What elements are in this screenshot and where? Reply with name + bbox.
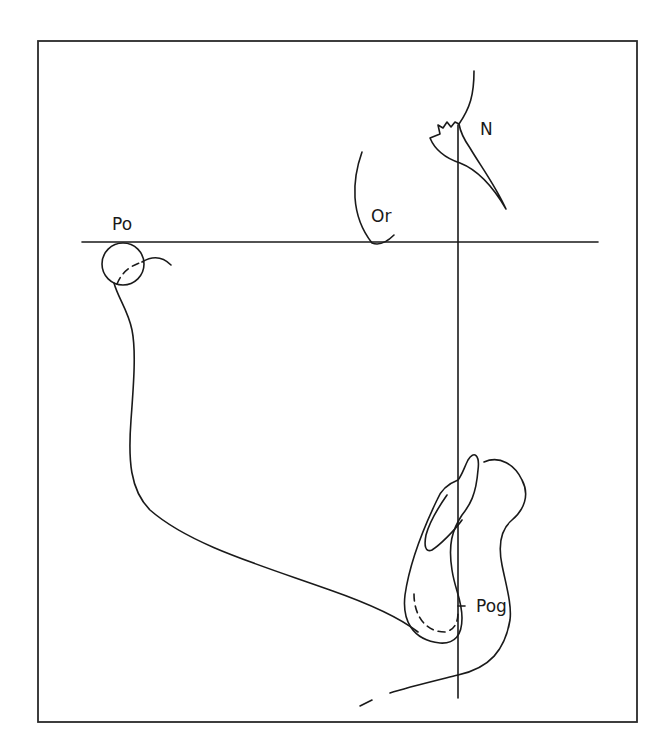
symphysis-outline [404, 455, 478, 643]
soft-tissue-fragment [360, 700, 372, 706]
cephalometric-diagram: Po Or N Pog [0, 0, 665, 748]
label-pogonion: Pog [476, 596, 507, 616]
frontal-bone-curve [459, 71, 474, 124]
zygomatic-curve [142, 258, 171, 265]
diagram-frame [38, 41, 637, 722]
label-nasion: N [480, 119, 493, 139]
mandible-outline [114, 283, 418, 632]
symphysis-inner-dashed [414, 594, 458, 632]
condyle-dashed-line [117, 262, 142, 284]
lower-incisor [425, 495, 462, 551]
label-porion: Po [112, 214, 132, 234]
label-orbitale: Or [371, 206, 391, 226]
nasal-bone [430, 122, 506, 209]
orbitale-curve [355, 152, 394, 244]
